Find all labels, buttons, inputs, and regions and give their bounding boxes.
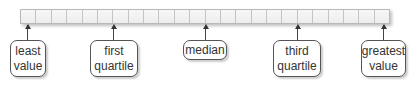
strip-cell xyxy=(190,10,205,23)
label-greatest-value-arrow xyxy=(383,25,384,40)
strip-cell xyxy=(67,10,82,23)
strip-cell xyxy=(298,10,313,23)
label-line: quartile xyxy=(277,59,316,74)
label-line: greatest xyxy=(362,44,405,59)
strip-cell xyxy=(144,10,159,23)
strip-cell xyxy=(221,10,236,23)
label-line: value xyxy=(369,59,398,74)
label-third-quartile: third quartile xyxy=(273,40,321,77)
strip-cell xyxy=(267,10,282,23)
strip-cell xyxy=(206,10,221,23)
label-first-quartile-arrow xyxy=(113,25,114,40)
label-least-value: least value xyxy=(10,40,46,77)
label-line: median xyxy=(185,43,224,58)
label-line: value xyxy=(14,59,43,74)
label-greatest-value: greatest value xyxy=(361,40,406,77)
label-line: third xyxy=(285,44,308,59)
strip-cell xyxy=(159,10,174,23)
label-third-quartile-arrow xyxy=(297,25,298,40)
strip-cell xyxy=(113,10,128,23)
strip-cell xyxy=(236,10,251,23)
data-strip xyxy=(20,9,390,24)
strip-cell xyxy=(344,10,359,23)
strip-cell xyxy=(36,10,51,23)
label-line: first xyxy=(104,44,123,59)
strip-cell xyxy=(21,10,36,23)
strip-cell xyxy=(252,10,267,23)
label-median-arrow xyxy=(205,25,206,40)
strip-cell xyxy=(313,10,328,23)
strip-cell xyxy=(329,10,344,23)
label-line: least xyxy=(15,44,40,59)
strip-cell xyxy=(98,10,113,23)
strip-cell xyxy=(129,10,144,23)
label-least-value-arrow xyxy=(27,25,28,40)
strip-cell xyxy=(83,10,98,23)
strip-cell xyxy=(359,10,374,23)
strip-cell xyxy=(375,10,389,23)
strip-cell xyxy=(52,10,67,23)
label-line: quartile xyxy=(94,59,133,74)
label-first-quartile: first quartile xyxy=(90,40,138,77)
strip-cell xyxy=(175,10,190,23)
label-median: median xyxy=(183,40,227,60)
strip-cell xyxy=(282,10,297,23)
